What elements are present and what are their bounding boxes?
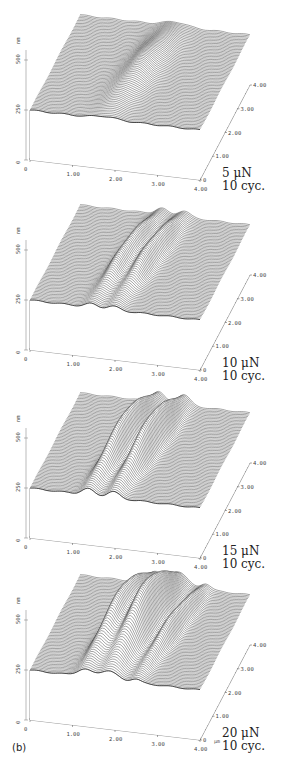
z-axis-unit: nm — [15, 227, 21, 234]
y-tick-label: 0 — [203, 737, 206, 743]
x-tick-label: 0 — [24, 166, 27, 172]
y-tick-label: 2.00 — [228, 320, 241, 326]
y-tick-label: 3.00 — [241, 296, 254, 302]
z-tick-label: 500 — [15, 432, 21, 442]
cycles-label: 10 cyc. — [222, 370, 265, 383]
surface-plot-panel: 0250500nm01.002.003.004.0001.002.003.004… — [0, 10, 296, 200]
x-tick-label: 2.00 — [109, 554, 122, 560]
z-tick-label: 0 — [15, 539, 21, 542]
y-tick-label: 4.00 — [253, 272, 266, 278]
x-tick-label: 4.00 — [194, 186, 207, 192]
z-tick-label: 500 — [15, 614, 21, 624]
cycles-label: 10 cyc. — [222, 740, 265, 753]
condition-label: 5 μN10 cyc. — [222, 167, 265, 193]
y-tick-label: 1.00 — [216, 531, 229, 537]
y-tick-label: 4.00 — [253, 642, 266, 648]
x-tick-label: 0 — [24, 726, 27, 732]
z-axis-unit: nm — [15, 597, 21, 604]
x-axis-unit: μm — [214, 738, 220, 744]
x-tick-label: 1.00 — [67, 361, 80, 367]
z-tick-label: 250 — [15, 664, 21, 674]
condition-label: 15 μN10 cyc. — [222, 545, 265, 571]
y-tick-label: 3.00 — [241, 666, 254, 672]
x-tick-label: 0 — [24, 544, 27, 550]
figure-label: (b) — [12, 742, 26, 753]
y-tick-label: 3.00 — [241, 106, 254, 112]
y-tick-label: 3.00 — [241, 484, 254, 490]
x-tick-label: 3.00 — [152, 181, 165, 187]
y-tick-label: 0 — [203, 367, 206, 373]
y-tick-label: 4.00 — [253, 460, 266, 466]
x-tick-label: 3.00 — [152, 371, 165, 377]
surface-plot-panel: 0250500nm01.002.003.004.0001.002.003.004… — [0, 570, 296, 760]
y-tick-label: 0 — [203, 555, 206, 561]
z-tick-label: 0 — [15, 721, 21, 724]
z-tick-label: 500 — [15, 54, 21, 64]
x-tick-label: 2.00 — [109, 366, 122, 372]
x-tick-label: 2.00 — [109, 736, 122, 742]
y-tick-label: 4.00 — [253, 82, 266, 88]
z-tick-label: 0 — [15, 351, 21, 354]
z-axis-unit: nm — [15, 415, 21, 422]
z-tick-label: 0 — [15, 161, 21, 164]
y-tick-label: 2.00 — [228, 690, 241, 696]
x-tick-label: 4.00 — [194, 376, 207, 382]
x-tick-label: 1.00 — [67, 731, 80, 737]
y-tick-label: 2.00 — [228, 130, 241, 136]
z-tick-label: 250 — [15, 104, 21, 114]
condition-label: 10 μN10 cyc. — [222, 357, 265, 383]
y-tick-label: 1.00 — [216, 713, 229, 719]
x-tick-label: 2.00 — [109, 176, 122, 182]
y-tick-label: 1.00 — [216, 153, 229, 159]
x-tick-label: 4.00 — [194, 746, 207, 752]
cycles-label: 10 cyc. — [222, 180, 265, 193]
z-axis-unit: nm — [15, 37, 21, 44]
x-tick-label: 1.00 — [67, 549, 80, 555]
y-tick-label: 2.00 — [228, 508, 241, 514]
condition-label: 20 μN10 cyc. — [222, 727, 265, 753]
x-tick-label: 3.00 — [152, 741, 165, 747]
y-tick-label: 0 — [203, 177, 206, 183]
x-tick-label: 0 — [24, 356, 27, 362]
z-tick-label: 250 — [15, 294, 21, 304]
z-tick-label: 500 — [15, 244, 21, 254]
z-tick-label: 250 — [15, 482, 21, 492]
surface-plot-panel: 0250500nm01.002.003.004.0001.002.003.004… — [0, 388, 296, 578]
x-tick-label: 3.00 — [152, 559, 165, 565]
surface-plot-panel: 0250500nm01.002.003.004.0001.002.003.004… — [0, 200, 296, 390]
x-tick-label: 1.00 — [67, 171, 80, 177]
y-tick-label: 1.00 — [216, 343, 229, 349]
